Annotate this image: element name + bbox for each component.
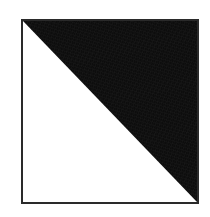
upper-right-triangle [23, 21, 197, 202]
half-filled-square [21, 19, 199, 204]
figure-canvas [0, 0, 210, 217]
triangle-polygon [23, 21, 197, 202]
